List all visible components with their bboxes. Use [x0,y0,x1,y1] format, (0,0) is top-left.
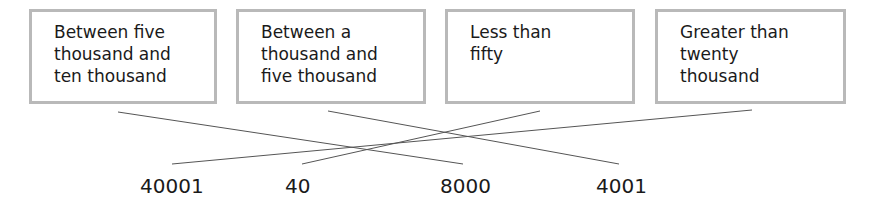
connector-line-box4-to-40001 [172,110,752,164]
number-40: 40 [285,174,310,198]
connector-lines [0,0,869,221]
connector-line-box3-to-40 [302,111,540,164]
connector-line-box1-to-8000 [118,112,463,164]
number-40001: 40001 [140,174,204,198]
number-4001: 4001 [596,174,647,198]
connector-line-box2-to-4001 [328,111,619,164]
number-8000: 8000 [440,174,491,198]
